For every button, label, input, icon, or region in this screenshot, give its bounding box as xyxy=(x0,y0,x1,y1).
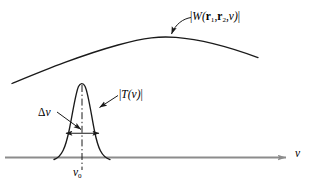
figure-canvas xyxy=(0,0,311,187)
bandwidth-label: Δν xyxy=(38,107,51,119)
frequency-axis-label: ν xyxy=(295,148,300,160)
w-curve xyxy=(12,37,258,84)
delta-nu-symbol: ν xyxy=(45,106,50,118)
w-label-leader-line xyxy=(172,18,192,35)
w-curve-label: |W(r1,r2,ν)| xyxy=(190,11,240,24)
t-label-close-bar: | xyxy=(141,88,143,100)
w-label-symbol: W xyxy=(192,10,202,22)
w-label-close-bar: | xyxy=(238,10,240,22)
t-label-leader-line xyxy=(100,96,119,108)
t-curve-label: |T(ν)| xyxy=(119,89,143,101)
delta-nu-leader-line xyxy=(57,112,81,130)
nu-zero-subscript: 0 xyxy=(78,172,82,180)
spectral-curves-figure: |W(r1,r2,ν)| |T(ν)| Δν ν0 ν xyxy=(0,0,311,187)
center-frequency-label: ν0 xyxy=(73,167,82,180)
